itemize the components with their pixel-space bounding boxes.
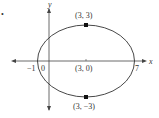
left-vertex-label: −1	[27, 64, 36, 73]
center-point-label: (3, 0)	[75, 64, 93, 73]
bottom-point-label: (3, −3)	[73, 102, 95, 111]
top-point-label: (3, 3)	[75, 11, 93, 20]
ellipse-figure: • x y (3, 3) (3, 0) (3, −3) −1 0 7	[0, 0, 159, 118]
right-vertex-label: 7	[135, 64, 139, 73]
x-axis-left-arrow-icon	[11, 59, 16, 63]
origin-label: 0	[41, 64, 45, 73]
y-axis-down-arrow-icon	[47, 106, 51, 111]
bottom-point-marker	[84, 95, 88, 99]
x-axis-label: x	[148, 57, 153, 66]
bullet-marker: •	[1, 10, 4, 19]
y-axis-label: y	[47, 0, 52, 9]
x-axis-right-arrow-icon	[142, 59, 147, 63]
top-point-marker	[84, 23, 88, 27]
